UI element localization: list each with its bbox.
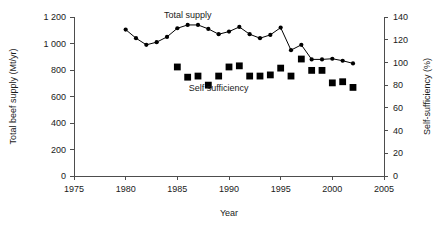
- data-point-circle: [258, 36, 262, 40]
- data-point-circle: [310, 57, 314, 61]
- chart-background: [0, 0, 446, 229]
- x-tick-label-1985: 1985: [167, 184, 187, 194]
- data-point-square: [277, 65, 284, 72]
- right-tick-label-120: 120: [393, 35, 408, 45]
- x-tick-label-2005: 2005: [374, 184, 394, 194]
- data-point-circle: [237, 25, 241, 29]
- data-point-circle: [330, 57, 334, 61]
- data-point-square: [195, 73, 202, 80]
- right-tick-label-140: 140: [393, 12, 408, 22]
- data-point-circle: [351, 61, 355, 65]
- x-tick-label-1975: 1975: [64, 184, 84, 194]
- data-point-circle: [320, 57, 324, 61]
- data-point-circle: [165, 35, 169, 39]
- beef-supply-self-sufficiency-chart: 02004006008001 0001 200 1975198019851990…: [0, 0, 446, 229]
- data-point-square: [339, 78, 346, 85]
- left-tick-label-400: 400: [51, 118, 66, 128]
- data-point-square: [267, 72, 274, 79]
- y-axis-title: Total beef supply (Mt/yr): [8, 48, 18, 144]
- chart-figure: 02004006008001 0001 200 1975198019851990…: [0, 0, 446, 229]
- right-tick-label-40: 40: [393, 126, 403, 136]
- x-tick-label-1995: 1995: [271, 184, 291, 194]
- data-point-circle: [196, 23, 200, 27]
- right-tick-label-80: 80: [393, 80, 403, 90]
- x-axis-title: Year: [220, 208, 238, 218]
- left-tick-label-1000: 1 000: [43, 39, 66, 49]
- data-point-square: [308, 67, 315, 74]
- data-point-square: [226, 64, 233, 71]
- x-tick-label-1980: 1980: [116, 184, 136, 194]
- data-point-circle: [289, 48, 293, 52]
- data-point-circle: [124, 27, 128, 31]
- data-point-square: [215, 73, 222, 80]
- data-point-square: [298, 56, 305, 63]
- data-point-square: [246, 73, 253, 80]
- right-tick-label-20: 20: [393, 148, 403, 158]
- right-tick-label-100: 100: [393, 58, 408, 68]
- right-tick-label-0: 0: [393, 171, 398, 181]
- data-point-square: [288, 73, 295, 80]
- data-point-square: [329, 79, 336, 86]
- data-point-circle: [186, 23, 190, 27]
- x-tick-label-2000: 2000: [322, 184, 342, 194]
- data-point-square: [319, 67, 326, 74]
- data-point-circle: [341, 59, 345, 63]
- x-tick-label-1990: 1990: [219, 184, 239, 194]
- data-point-circle: [279, 26, 283, 30]
- data-point-circle: [248, 32, 252, 36]
- data-point-circle: [175, 26, 179, 30]
- data-point-square: [184, 74, 191, 81]
- data-point-square: [350, 84, 357, 91]
- y2-axis-title: Self-sufficiency (%): [422, 58, 432, 135]
- data-point-circle: [227, 29, 231, 33]
- series-annotation-0: Total supply: [164, 10, 212, 20]
- right-tick-label-60: 60: [393, 103, 403, 113]
- data-point-circle: [217, 32, 221, 36]
- data-point-circle: [299, 43, 303, 47]
- data-point-circle: [155, 40, 159, 44]
- data-point-circle: [144, 43, 148, 47]
- left-tick-label-800: 800: [51, 65, 66, 75]
- left-tick-label-0: 0: [61, 171, 66, 181]
- data-point-square: [174, 64, 181, 71]
- data-point-circle: [206, 27, 210, 31]
- data-point-square: [236, 62, 243, 69]
- left-tick-label-1200: 1 200: [43, 12, 66, 22]
- data-point-circle: [134, 36, 138, 40]
- data-point-square: [257, 73, 264, 80]
- left-tick-label-600: 600: [51, 92, 66, 102]
- data-point-circle: [268, 33, 272, 37]
- series-annotation-1: Self sufficiency: [189, 83, 249, 93]
- left-tick-label-200: 200: [51, 145, 66, 155]
